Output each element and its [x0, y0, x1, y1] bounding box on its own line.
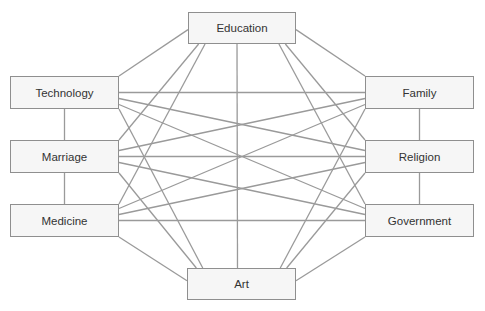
institutions-network-diagram: Education Technology Marriage Medicine F…: [0, 0, 485, 311]
node-art: Art: [187, 268, 296, 300]
node-technology: Technology: [10, 76, 119, 109]
node-label: Religion: [399, 151, 441, 163]
node-medicine: Medicine: [10, 204, 119, 237]
node-label: Marriage: [42, 151, 87, 163]
node-label: Medicine: [41, 215, 87, 227]
node-marriage: Marriage: [10, 140, 119, 173]
node-label: Technology: [35, 87, 93, 99]
node-label: Education: [216, 22, 267, 34]
node-label: Art: [234, 278, 249, 290]
node-education: Education: [188, 12, 296, 44]
node-religion: Religion: [365, 140, 474, 173]
node-family: Family: [365, 76, 474, 109]
node-government: Government: [365, 204, 474, 237]
node-label: Family: [403, 87, 437, 99]
node-label: Government: [388, 215, 451, 227]
